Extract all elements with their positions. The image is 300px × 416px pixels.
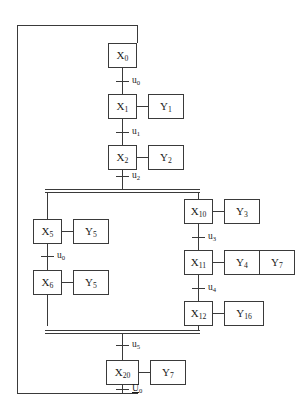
action-y4[interactable]: Y4 [224,250,260,275]
action-y2-label: Y2 [160,152,172,163]
step-x10-label: X10 [191,206,207,217]
action-y7-second[interactable]: Y7 [150,360,186,385]
step-x0[interactable]: X0 [108,43,137,68]
parallel-split-bar [45,189,200,193]
step-x5-label: X5 [42,226,54,237]
action-y5-second[interactable]: Y5 [73,270,109,295]
transition-t5-tick[interactable] [116,345,129,346]
link-x12-to-y16 [213,313,224,314]
step-x11[interactable]: X11 [184,250,213,275]
action-y2[interactable]: Y2 [148,145,184,170]
transition-treset-label: U0 [132,384,142,394]
action-y7-second-label: Y7 [162,367,174,378]
step-x5[interactable]: X5 [33,219,62,244]
action-y4-label: Y4 [236,257,248,268]
transition-t2-label: u2 [132,171,140,181]
transition-t4-tick[interactable] [192,288,205,289]
transition-t0-label: u0 [132,76,140,86]
action-y16[interactable]: Y16 [224,301,264,326]
action-y7-first[interactable]: Y7 [259,250,295,275]
link-x2-to-y2 [137,157,148,158]
transition-tleft-tick[interactable] [41,256,54,257]
action-y3[interactable]: Y3 [224,199,260,224]
step-x2-label: X2 [117,152,129,163]
link-x1-to-y1 [137,106,148,107]
step-x0-label: X0 [117,50,129,61]
step-x10[interactable]: X10 [184,199,213,224]
step-x1[interactable]: X1 [108,94,137,119]
transition-t0-tick[interactable] [116,81,129,82]
action-y16-label: Y16 [236,308,252,319]
link-x20-to-y7 [139,372,150,373]
feedback-left-segment [17,25,18,394]
action-y5-first-label: Y5 [85,226,97,237]
step-x6-label: X6 [42,277,54,288]
transition-tleft-label: u0 [57,251,65,261]
link-x6-to-y5 [62,282,73,283]
transition-treset-tick[interactable] [116,389,129,390]
link-x2-to-t2 [122,170,123,190]
step-x11-label: X11 [191,257,206,268]
link-x10-to-y3 [213,211,224,212]
feedback-top-segment [17,25,138,26]
sfc-diagram-canvas: X0 u0 X1 Y1 u1 X2 Y2 u2 X5 Y5 u0 X6 [0,0,300,416]
link-x6-to-join [47,295,48,326]
transition-t4-label: u4 [208,283,216,293]
step-x2[interactable]: X2 [108,145,137,170]
link-join-to-t5 [122,334,123,360]
action-y5-second-label: Y5 [85,277,97,288]
action-y5-first[interactable]: Y5 [73,219,109,244]
feedback-into-x0-segment [137,25,138,43]
step-x20[interactable]: X20 [106,360,139,385]
link-x5-to-tleft [47,244,48,270]
action-y3-label: Y3 [236,206,248,217]
action-y1[interactable]: Y1 [148,94,184,119]
link-x11-to-actions [213,262,224,263]
action-y7-first-label: Y7 [271,257,283,268]
action-y1-label: Y1 [160,101,172,112]
transition-t3-tick[interactable] [192,237,205,238]
split-drop-left [47,193,48,219]
transition-t5-label: u5 [132,340,140,350]
step-x12-label: X12 [191,308,207,319]
transition-t3-label: u3 [208,232,216,242]
step-x1-label: X1 [117,101,129,112]
transition-t1-label: u1 [132,127,140,137]
feedback-bottom-segment [17,393,138,394]
step-x6[interactable]: X6 [33,270,62,295]
step-x12[interactable]: X12 [184,301,213,326]
link-x5-to-y5 [62,231,73,232]
step-x20-label: X20 [115,367,131,378]
transition-t1-tick[interactable] [116,132,129,133]
transition-t2-tick[interactable] [116,176,129,177]
